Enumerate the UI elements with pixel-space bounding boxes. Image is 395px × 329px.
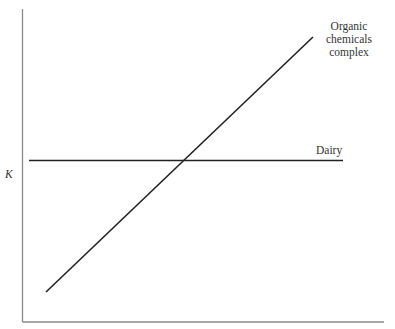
y-axis-label: K [5, 168, 13, 181]
organic-chemicals-line [46, 37, 313, 292]
dairy-label: Dairy [316, 144, 342, 157]
organic-label-line2: complex [307, 46, 391, 59]
organic-chemicals-label: Organic chemicals complex [307, 20, 391, 59]
organic-label-line1: Organic chemicals [307, 20, 391, 46]
